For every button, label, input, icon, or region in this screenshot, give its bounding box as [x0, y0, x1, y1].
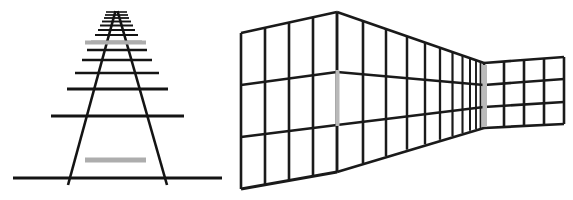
- receding-top-edge: [337, 12, 484, 63]
- upper-gray-bar: [85, 41, 146, 45]
- left-wall-group: [241, 12, 337, 189]
- illusion-figure-pair: [0, 0, 573, 200]
- lower-gray-bar: [85, 158, 146, 163]
- left-panel-railroad-ponzo: [0, 0, 230, 200]
- far-gray-bar: [483, 65, 488, 127]
- right-panel-corridor-perspective: [230, 0, 573, 200]
- receding-wall-group: [337, 12, 484, 172]
- railroad-ties-group: [13, 12, 222, 178]
- near-gray-bar: [336, 70, 340, 126]
- receding-bottom-edge: [337, 128, 484, 172]
- far-wall-group: [484, 57, 564, 128]
